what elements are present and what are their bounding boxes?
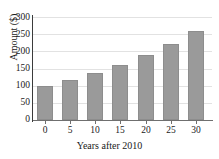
x-tick-mark: [171, 121, 172, 124]
gridline: [33, 34, 212, 35]
x-axis-title: Years after 2010: [0, 140, 219, 152]
y-tick-label: 150: [2, 64, 30, 74]
x-tick-label: 0: [33, 125, 57, 136]
x-tick-label: 25: [159, 125, 183, 136]
x-tick-mark: [45, 121, 46, 124]
x-tick-label: 20: [134, 125, 158, 136]
x-tick-label: 15: [108, 125, 132, 136]
gridline: [33, 17, 212, 18]
x-tick-mark: [146, 121, 147, 124]
bar-5: [62, 80, 78, 120]
x-axis-baseline: [33, 120, 213, 121]
bar-25: [163, 44, 179, 120]
y-tick-label: 250: [2, 30, 30, 40]
x-tick-mark: [95, 121, 96, 124]
bar-30: [188, 31, 204, 120]
y-tick-label: 300: [2, 13, 30, 23]
y-tick-label: 100: [2, 81, 30, 91]
x-tick-label: 30: [184, 125, 208, 136]
x-tick-label: 5: [58, 125, 82, 136]
bar-chart: Amount ($) 300 250 200 150 100 50 0: [0, 0, 219, 159]
x-tick-mark: [70, 121, 71, 124]
bar-10: [87, 73, 103, 120]
plot-area: [33, 17, 212, 120]
bar-15: [112, 65, 128, 120]
y-axis-tick-labels: 300 250 200 150 100 50 0: [0, 0, 30, 159]
x-tick-label: 10: [83, 125, 107, 136]
y-tick-label: 200: [2, 47, 30, 57]
x-tick-mark: [196, 121, 197, 124]
gridline: [33, 51, 212, 52]
y-tick-label: 0: [2, 115, 30, 125]
bar-0: [37, 86, 53, 120]
x-tick-mark: [120, 121, 121, 124]
bar-20: [138, 55, 154, 120]
y-tick-label: 50: [2, 98, 30, 108]
